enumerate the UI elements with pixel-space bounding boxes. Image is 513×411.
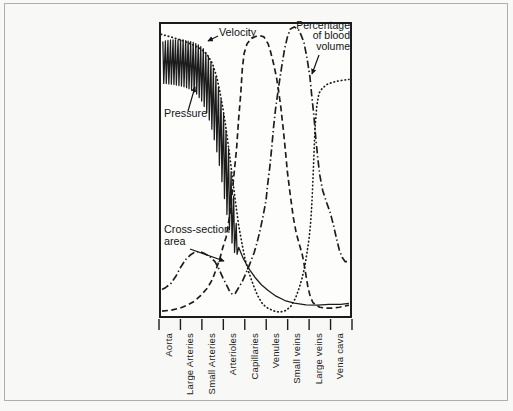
pressure-label: Pressure xyxy=(164,108,207,120)
cross-section-area-label: Cross-section area xyxy=(164,224,230,247)
pressure-series xyxy=(163,40,349,305)
scanned-figure: AortaLarge ArteriesSmall ArteriesArterio… xyxy=(0,0,513,411)
plot-box xyxy=(159,22,352,318)
cross-section-area-series xyxy=(162,36,349,311)
blood-volume-label: Percentage of blood volume xyxy=(296,20,350,51)
velocity-label: Velocity xyxy=(219,27,256,39)
x-axis-ticks xyxy=(158,319,354,333)
series-plot xyxy=(161,24,350,316)
